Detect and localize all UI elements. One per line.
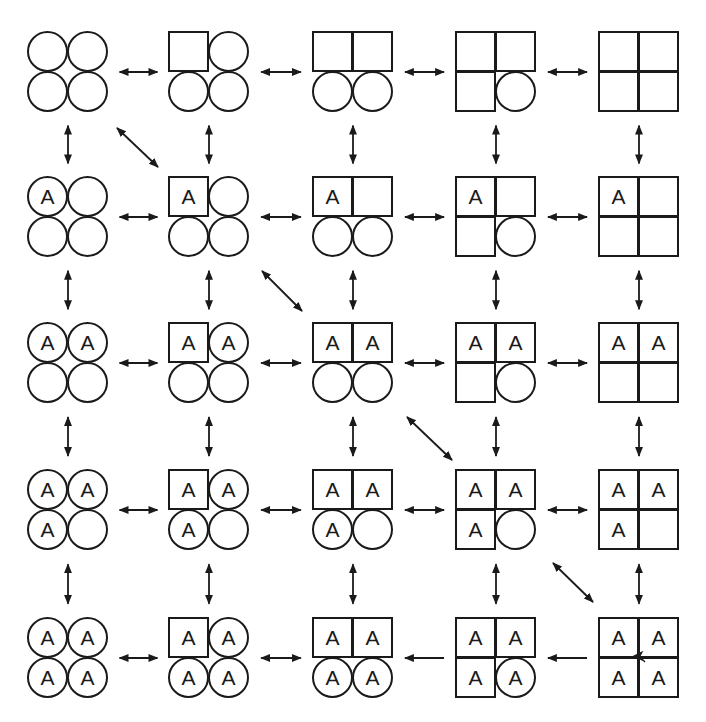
state-cell-r1-c3 [312,31,394,113]
circle-position [352,71,393,112]
circle-position [67,362,108,403]
square-position: A [598,469,639,510]
square-position: A [598,322,639,363]
circle-position [67,216,108,257]
square-position: A [638,617,679,658]
state-cell-r3-c5: AA [598,322,680,404]
square-position [638,509,679,550]
circle-position [67,176,108,217]
circle-position: A [67,469,108,510]
circle-position [27,71,68,112]
square-position: A [352,322,393,363]
circle-position [208,71,249,112]
circle-position [27,362,68,403]
circle-position: A [312,657,353,698]
circle-position [352,362,393,403]
square-position: A [455,657,496,698]
diagonal-double-arrow-icon [553,563,593,602]
state-cell-r3-c1: AA [27,322,109,404]
state-cell-r1-c1 [27,31,109,113]
circle-position [208,31,249,72]
circle-position: A [27,322,68,363]
circle-position: A [168,657,209,698]
square-position: A [312,322,353,363]
circle-position [168,216,209,257]
square-position: A [168,469,209,510]
circle-position [208,509,249,550]
square-position [638,71,679,112]
square-position: A [168,322,209,363]
transition-diagram: AAAAAAAAAAAAAAAAAAAAAAAAAAAAAAAAAAAAAAAA… [0,0,706,722]
square-position: A [598,657,639,698]
circle-position [495,509,536,550]
diagonal-double-arrow-icon [407,417,452,460]
circle-position [67,509,108,550]
circle-position: A [352,657,393,698]
circle-position: A [208,657,249,698]
diagonal-double-arrow-icon [262,271,302,311]
circle-position: A [27,617,68,658]
square-position [598,71,639,112]
square-position [598,362,639,403]
state-cell-r2-c3: A [312,176,394,258]
circle-position: A [27,657,68,698]
circle-position [67,31,108,72]
circle-position: A [168,509,209,550]
circle-position [168,71,209,112]
diagonal-double-arrow-icon [117,128,158,167]
state-cell-r4-c1: AAA [27,469,109,551]
square-position: A [168,176,209,217]
state-cell-r4-c4: AAA [455,469,537,551]
circle-position: A [27,509,68,550]
state-cell-r2-c5: A [598,176,680,258]
square-position: A [352,617,393,658]
square-position: A [598,176,639,217]
square-position [495,176,536,217]
circle-position [208,176,249,217]
circle-position: A [495,657,536,698]
circle-position [67,71,108,112]
state-cell-r4-c2: AAA [168,469,250,551]
square-position: A [638,322,679,363]
circle-position [27,31,68,72]
square-position: A [598,509,639,550]
circle-position: A [27,176,68,217]
square-position: A [455,322,496,363]
circle-position: A [208,617,249,658]
square-position [312,31,353,72]
square-position [168,31,209,72]
circle-position: A [27,469,68,510]
square-position: A [495,617,536,658]
state-cell-r1-c2 [168,31,250,113]
circle-position: A [67,657,108,698]
circle-position [27,216,68,257]
state-cell-r5-c2: AAAA [168,617,250,699]
square-position [455,216,496,257]
state-cell-r3-c3: AA [312,322,394,404]
circle-position: A [312,509,353,550]
square-position: A [598,617,639,658]
circle-position [312,362,353,403]
square-position: A [455,617,496,658]
circle-position: A [67,322,108,363]
square-position: A [495,469,536,510]
square-position [455,362,496,403]
square-position [455,71,496,112]
square-position: A [168,617,209,658]
square-position [352,176,393,217]
circle-position [312,216,353,257]
circle-position [312,71,353,112]
state-cell-r3-c4: AA [455,322,537,404]
state-cell-r5-c4: AAAA [455,617,537,699]
square-position [638,176,679,217]
square-position: A [455,176,496,217]
square-position: A [455,509,496,550]
circle-position: A [208,322,249,363]
state-cell-r2-c2: A [168,176,250,258]
circle-position [168,362,209,403]
circle-position [495,71,536,112]
square-position [352,31,393,72]
state-cell-r4-c3: AAA [312,469,394,551]
state-cell-r5-c5: AAAA [598,617,680,699]
circle-position [495,362,536,403]
